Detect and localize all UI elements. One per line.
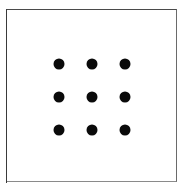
dot-r1-c3 <box>120 59 131 70</box>
dot-r1-c1 <box>54 59 65 70</box>
dot-grid <box>0 0 194 189</box>
dot-r3-c3 <box>120 125 131 136</box>
dot-r2-c3 <box>120 92 131 103</box>
figure-canvas <box>0 0 194 189</box>
dot-r3-c2 <box>87 125 98 136</box>
dot-r1-c2 <box>87 59 98 70</box>
dot-r2-c2 <box>87 92 98 103</box>
dot-r2-c1 <box>54 92 65 103</box>
dot-r3-c1 <box>54 125 65 136</box>
